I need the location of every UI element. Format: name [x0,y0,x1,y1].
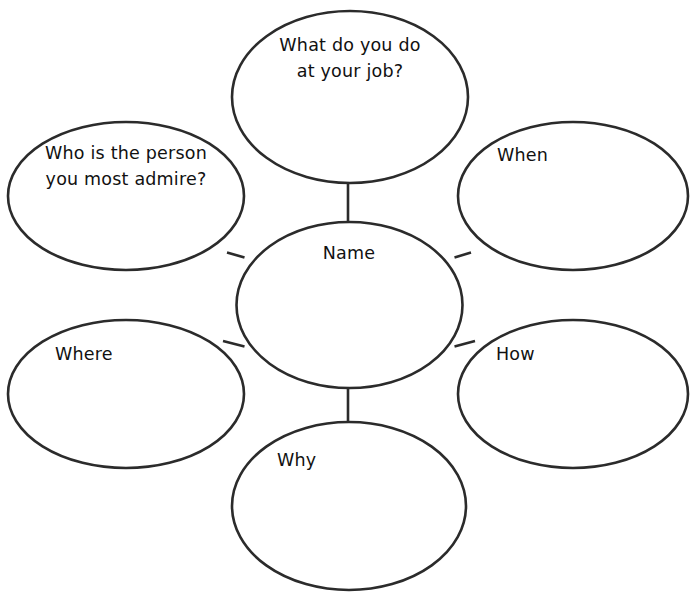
bubble-outline-bottom [232,422,466,590]
bubble-layer: What do you doat your job?Who is the per… [8,11,688,590]
connector-center-to-lower-left [223,341,245,347]
bubble-lower-right[interactable]: How [458,320,688,468]
bubble-label-lower-right: How [496,344,535,364]
bubble-outline-lower-right [458,320,688,468]
bubble-label-line: you most admire? [46,169,207,189]
bubble-top[interactable]: What do you doat your job? [232,11,468,183]
bubble-label-lower-left: Where [55,344,113,364]
bubble-upper-right[interactable]: When [458,122,688,270]
bubble-label-line: Why [277,450,316,470]
bubble-outline-lower-left [8,320,244,468]
bubble-bottom[interactable]: Why [232,422,466,590]
bubble-label-line: How [496,344,535,364]
connector-center-to-upper-left [227,253,245,258]
bubble-label-bottom: Why [277,450,316,470]
concept-web-diagram: What do you doat your job?Who is the per… [0,0,697,597]
bubble-label-line: When [497,145,548,165]
bubble-upper-left[interactable]: Who is the personyou most admire? [8,122,244,270]
bubble-outline-upper-right [458,122,688,270]
bubble-center[interactable]: Name [237,222,463,388]
bubble-label-center: Name [323,243,375,263]
connector-center-to-upper-right [455,253,472,258]
concept-web-canvas: What do you doat your job?Who is the per… [0,0,697,597]
connector-center-to-lower-right [455,341,476,347]
bubble-label-line: Where [55,344,113,364]
bubble-label-line: at your job? [297,61,403,81]
bubble-lower-left[interactable]: Where [8,320,244,468]
bubble-label-upper-right: When [497,145,548,165]
bubble-label-line: Who is the person [45,143,207,163]
bubble-label-line: What do you do [279,35,420,55]
bubble-label-line: Name [323,243,375,263]
